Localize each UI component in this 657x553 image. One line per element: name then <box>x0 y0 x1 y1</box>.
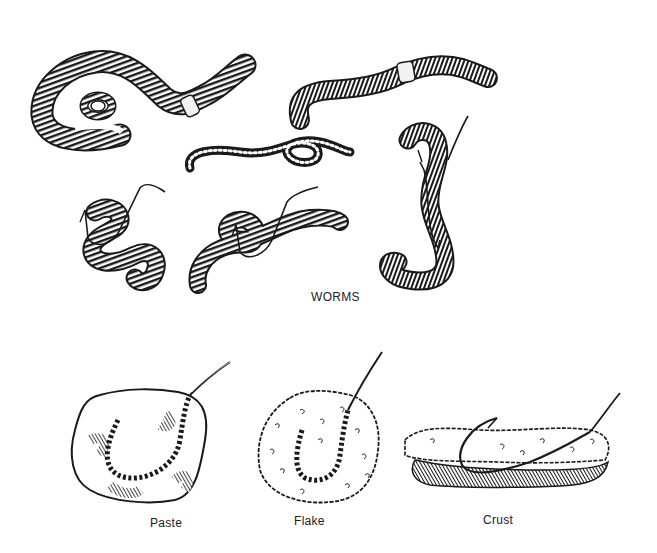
thin-coiled-worm <box>189 141 350 168</box>
illustration-canvas <box>0 0 657 553</box>
paste-bait <box>72 362 230 502</box>
long-worm-top-right <box>299 61 488 120</box>
crust-bait <box>405 393 620 487</box>
hooked-worm-middle <box>197 187 340 285</box>
large-coiled-worm <box>42 62 245 140</box>
crust-caption: Crust <box>483 513 513 527</box>
flake-caption: Flake <box>294 514 325 528</box>
worms-caption: WORMS <box>311 290 360 304</box>
hooked-worm-right-vertical <box>388 116 468 281</box>
hooked-worm-left <box>80 185 165 282</box>
paste-caption: Paste <box>150 516 182 530</box>
flake-bait <box>259 352 382 503</box>
